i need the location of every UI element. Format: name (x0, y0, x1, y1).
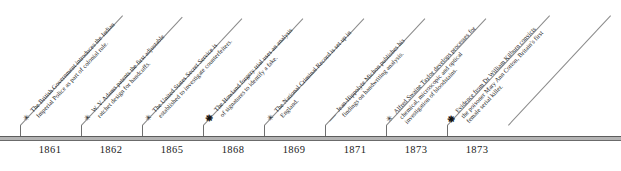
timeline-year-label: 1873 (466, 144, 489, 155)
timeline-year-label: 1871 (344, 144, 367, 155)
timeline-year-label: 1862 (100, 144, 123, 155)
timeline-tick (386, 125, 387, 136)
timeline-tick (325, 125, 326, 136)
timeline-tick (20, 125, 21, 136)
timeline-tick (264, 125, 265, 136)
timeline-year-label: 1869 (283, 144, 306, 155)
timeline-year-label: 1873 (405, 144, 428, 155)
timeline-tick (447, 125, 448, 136)
timeline-axis-bottom-rule (0, 140, 621, 141)
timeline-tick (203, 125, 204, 136)
timeline-chart: 18611862186518681869187118731873 ✳The Br… (0, 0, 621, 171)
timeline-year-label: 1861 (39, 144, 62, 155)
timeline-leader-line (508, 15, 611, 125)
timeline-tick (142, 125, 143, 136)
timeline-tick (81, 125, 82, 136)
timeline-year-label: 1865 (161, 144, 184, 155)
timeline-year-label: 1868 (222, 144, 245, 155)
